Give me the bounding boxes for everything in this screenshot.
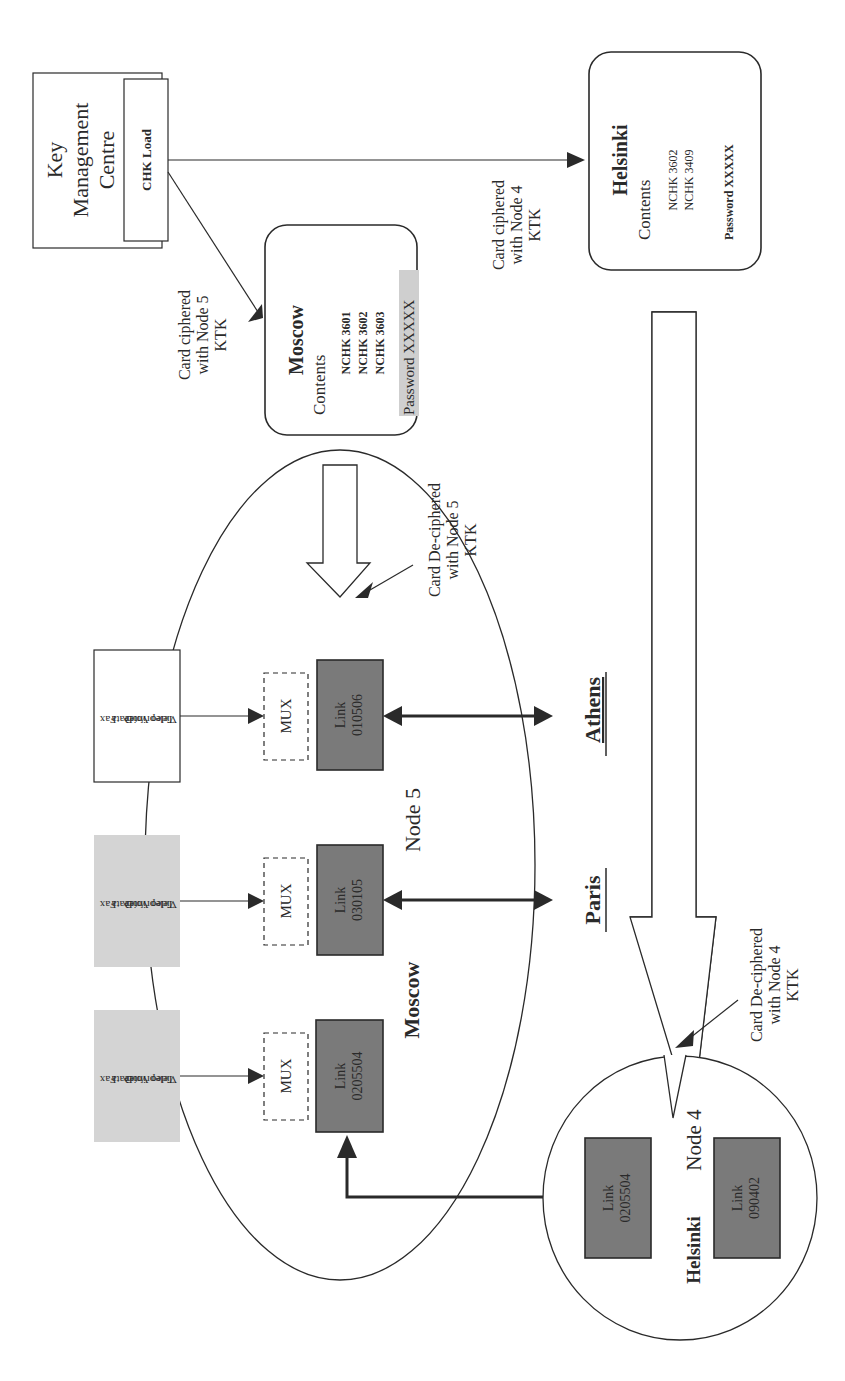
arrowhead-icon: [355, 582, 373, 598]
svg-text:Video: Video: [150, 714, 177, 726]
mux-paris: MUX: [264, 858, 308, 945]
svg-text:KTK: KTK: [526, 208, 543, 241]
svg-text:Link: Link: [601, 1185, 616, 1211]
kmc-title-line-2: Management: [68, 103, 93, 218]
chk-load-label: CHK Load: [139, 128, 154, 191]
svg-text:Video: Video: [150, 899, 177, 911]
helsinki-card-password: Password XXXXX: [722, 144, 736, 240]
moscow-key-1: NCHK 3601: [339, 312, 353, 375]
svg-text:Paris: Paris: [580, 875, 605, 924]
link-0205504-moscow: Link 0205504: [316, 1020, 383, 1132]
link-0205504-helsinki: Link 0205504: [585, 1138, 651, 1258]
key-distribution-diagram: Key Management Centre CHK Load Card ciph…: [0, 0, 845, 1381]
moscow-card-title: Moscow: [285, 304, 307, 375]
arrowhead-icon: [248, 304, 263, 322]
arrowhead-icon: [248, 893, 264, 909]
svg-text:Link: Link: [333, 887, 348, 913]
helsinki-key-2: NCHK 3409: [682, 149, 696, 210]
moscow-card-contents: Contents: [310, 355, 329, 415]
node4-label: Node 4: [682, 1109, 706, 1171]
card-load-arrow-icon: [307, 465, 370, 597]
arrowhead-icon: [383, 890, 402, 910]
svg-text:Video: Video: [150, 1074, 177, 1086]
arrowhead-icon: [534, 706, 553, 726]
svg-text:Athens: Athens: [580, 677, 605, 743]
svg-text:KTK: KTK: [462, 523, 479, 556]
key-management-centre: Key Management Centre CHK Load: [33, 73, 168, 248]
node5-label: Node 5: [400, 788, 425, 852]
svg-text:Link: Link: [333, 1063, 348, 1089]
svg-text:with Node 4: with Node 4: [508, 185, 525, 264]
services-box-athens: Fax Data Voice Teleprinter Video: [94, 650, 180, 782]
kmc-title-line-3: Centre: [94, 131, 119, 190]
moscow-helsinki-link-line: [347, 1155, 568, 1197]
svg-text:with Node 5: with Node 5: [444, 500, 461, 579]
svg-text:090402: 090402: [747, 1177, 762, 1219]
svg-text:010506: 010506: [350, 694, 365, 736]
arrowhead-icon: [383, 706, 402, 726]
link-030105: Link 030105: [317, 845, 383, 955]
link-090402: Link 090402: [714, 1138, 780, 1258]
link-010506: Link 010506: [317, 660, 383, 770]
mux-athens: MUX: [264, 673, 308, 760]
services-box-paris: Fax Data Voice Teleprinter Video: [94, 835, 180, 967]
arrowhead-icon: [248, 708, 264, 724]
node4-cipher-note: Card ciphered with Node 4 KTK: [490, 180, 543, 270]
node5-cipher-note: Card ciphered with Node 5 KTK: [176, 290, 229, 380]
moscow-card-password: Password XXXXX: [401, 299, 417, 415]
destination-paris[interactable]: Paris: [580, 868, 606, 932]
svg-text:MUX: MUX: [278, 883, 294, 918]
arrowhead-icon: [567, 152, 585, 168]
arrowhead-icon: [248, 1068, 264, 1084]
mux-helsinki: MUX: [264, 1033, 308, 1120]
svg-text:Link: Link: [333, 702, 348, 728]
svg-text:Card ciphered: Card ciphered: [490, 180, 508, 270]
svg-text:with Node 4: with Node 4: [766, 945, 783, 1024]
svg-text:MUX: MUX: [278, 698, 294, 733]
helsinki-card-contents: Contents: [635, 180, 654, 240]
svg-text:KTK: KTK: [784, 968, 801, 1001]
svg-text:0205504: 0205504: [350, 1052, 365, 1101]
svg-text:Card De-ciphered: Card De-ciphered: [748, 928, 766, 1042]
svg-text:Link: Link: [730, 1185, 745, 1211]
helsinki-key-card: Helsinki Contents NCHK 3602 NCHK 3409 Pa…: [589, 52, 761, 270]
arrowhead-icon: [337, 1135, 357, 1158]
moscow-city-label: Moscow: [399, 961, 424, 1038]
moscow-key-card: Moscow Contents NCHK 3601 NCHK 3602 NCHK…: [265, 225, 419, 435]
svg-text:Card ciphered: Card ciphered: [176, 290, 194, 380]
kmc-title-line-1: Key: [42, 142, 67, 179]
helsinki-city-label: Helsinki: [683, 1216, 704, 1284]
svg-text:MUX: MUX: [278, 1058, 294, 1093]
arrowhead-icon: [534, 890, 553, 910]
helsinki-key-1: NCHK 3602: [666, 149, 680, 210]
svg-text:with Node 5: with Node 5: [194, 295, 211, 374]
svg-text:0205504: 0205504: [618, 1174, 633, 1223]
destination-athens[interactable]: Athens: [580, 672, 606, 756]
moscow-key-2: NCHK 3602: [356, 312, 370, 375]
svg-text:KTK: KTK: [212, 318, 229, 351]
svg-text:Card De-ciphered: Card De-ciphered: [426, 483, 444, 597]
node5-decipher-note: Card De-ciphered with Node 5 KTK: [426, 483, 479, 597]
helsinki-card-title: Helsinki: [609, 124, 631, 196]
node4-decipher-note: Card De-ciphered with Node 4 KTK: [748, 928, 801, 1042]
moscow-key-3: NCHK 3603: [373, 312, 387, 375]
services-box-helsinki: Fax Data Voice Teleprinter Video: [94, 1010, 180, 1142]
svg-text:030105: 030105: [350, 879, 365, 921]
